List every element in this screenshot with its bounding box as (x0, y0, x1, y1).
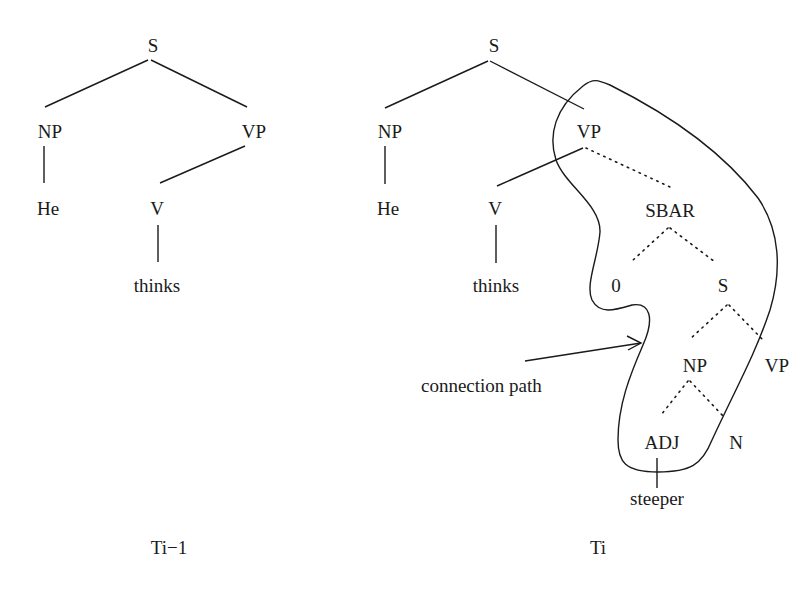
edge-sbar-s (670, 228, 715, 262)
node-he: He (377, 198, 399, 219)
caption-ti-minus-1: Ti−1 (151, 537, 187, 558)
node-sbar: SBAR (645, 200, 695, 221)
node-vp: VP (242, 121, 266, 142)
node-np2: NP (683, 355, 707, 376)
edge-s-np (45, 60, 148, 107)
node-s2: S (718, 275, 729, 296)
node-thinks: thinks (473, 275, 519, 296)
edge-sbar-zero (632, 228, 668, 261)
node-he: He (37, 198, 59, 219)
node-v: V (488, 198, 502, 219)
edge-s-vp2 (729, 305, 762, 339)
tree-ti: S NP VP He V SBAR thinks 0 S NP VP ADJ N… (377, 35, 789, 558)
edge-vp-sbar (586, 148, 670, 187)
node-s: S (148, 35, 159, 56)
connection-path-label: connection path (421, 375, 542, 396)
edge-s-vp (490, 61, 584, 109)
caption-ti: Ti (590, 537, 606, 558)
edge-s-np2 (690, 305, 727, 339)
node-np: NP (38, 121, 62, 142)
node-zero: 0 (611, 275, 621, 296)
node-v: V (150, 198, 164, 219)
node-np: NP (378, 121, 402, 142)
node-vp: VP (577, 121, 601, 142)
edge-np2-adj (661, 381, 688, 415)
parse-tree-diagram: S NP VP He V thinks Ti−1 S NP VP He (0, 0, 807, 593)
edge-np2-n (690, 381, 724, 417)
node-vp2: VP (765, 355, 789, 376)
edge-vp-v (160, 146, 245, 183)
node-s: S (489, 35, 500, 56)
node-adj: ADJ (645, 432, 680, 453)
edge-s-vp (151, 60, 247, 107)
node-steeper: steeper (630, 488, 684, 509)
edge-s-np (385, 61, 488, 108)
connection-path-arrow (525, 343, 641, 361)
node-n: N (729, 432, 743, 453)
tree-ti-minus-1: S NP VP He V thinks Ti−1 (37, 35, 266, 558)
node-thinks: thinks (134, 275, 180, 296)
edge-vp-v (497, 148, 583, 186)
